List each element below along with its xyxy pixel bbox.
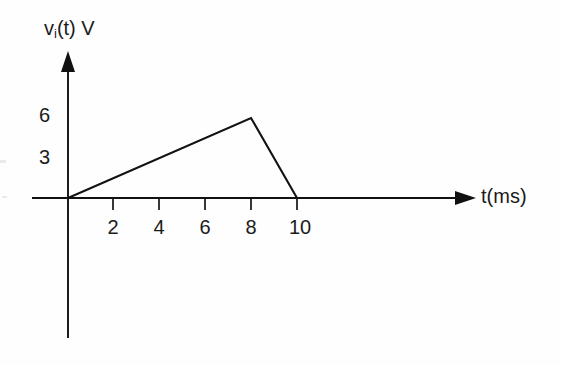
x-tick-label-2: 2	[107, 217, 118, 237]
y-axis-title-rest: (t) V	[57, 17, 95, 39]
waveform-figure: vi(t) V t(ms) 6 3 2 4 6 8 10	[0, 0, 562, 365]
x-tick-label-4: 4	[153, 217, 164, 237]
x-tick-label-6: 6	[199, 217, 210, 237]
y-tick-label-3: 3	[26, 147, 50, 167]
x-axis-title: t(ms)	[481, 186, 527, 206]
y-axis-title: vi(t) V	[44, 18, 95, 38]
y-axis-arrow-icon	[61, 51, 75, 72]
plot-canvas	[0, 0, 562, 365]
y-axis-title-main: v	[44, 17, 54, 39]
waveform-trace	[68, 118, 297, 198]
x-tick-label-8: 8	[245, 217, 256, 237]
y-axis-title-subscript: i	[54, 26, 57, 41]
x-tick-label-10: 10	[289, 217, 311, 237]
y-tick-label-6: 6	[26, 105, 50, 125]
x-axis-arrow-icon	[455, 191, 476, 205]
